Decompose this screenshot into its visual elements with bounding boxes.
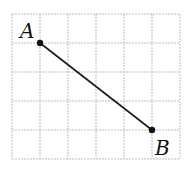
point-label-a: A bbox=[18, 19, 34, 43]
point-label-b: B bbox=[154, 136, 170, 160]
point-b bbox=[149, 127, 155, 133]
grid-diagram: AB bbox=[0, 0, 184, 169]
point-a bbox=[37, 40, 43, 46]
